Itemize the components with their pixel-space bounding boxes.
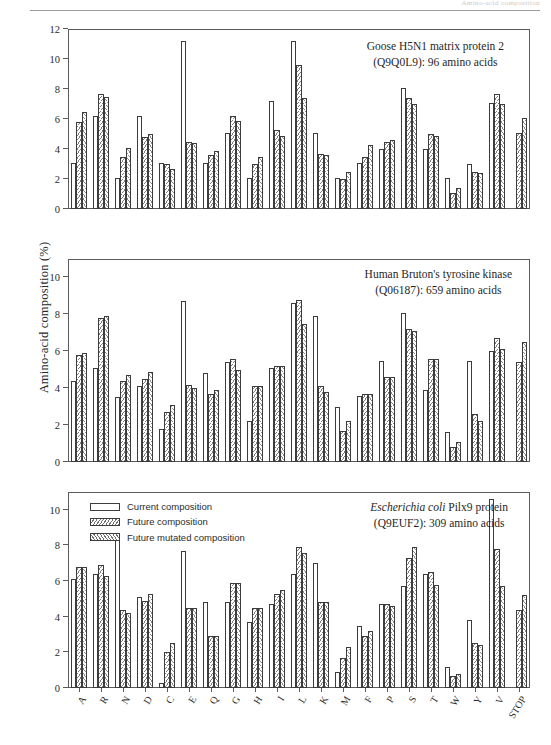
- panel-title: Goose H5N1 matrix protein 2(Q9Q0L9): 96 …: [367, 39, 504, 70]
- bar-H-s-mutated: [258, 157, 263, 210]
- y-axis-tick-label: 4: [55, 611, 60, 622]
- y-axis-tick: [63, 58, 68, 59]
- legend-item-s-current: Current composition: [90, 499, 245, 514]
- bar-W-s-mutated: [456, 674, 461, 688]
- figure-amino-acid-composition: Amino-acid composition Amino-acid compos…: [0, 0, 551, 745]
- bar-E-s-mutated: [192, 143, 197, 209]
- y-axis-tick-label: 12: [50, 24, 61, 35]
- bar-C-s-mutated: [170, 169, 175, 210]
- bar-L-s-mutated: [302, 324, 307, 462]
- y-axis-tick-label: 0: [55, 457, 60, 468]
- bar-M-s-mutated: [346, 647, 351, 688]
- legend-item-label: Current composition: [127, 499, 212, 514]
- bar-H-s-mutated: [258, 386, 263, 462]
- y-axis-tick: [63, 178, 68, 179]
- bar-G-s-mutated: [236, 121, 241, 210]
- x-axis-tick-label-R: R: [97, 694, 110, 705]
- y-axis-tick: [63, 148, 68, 149]
- bar-T-s-mutated: [434, 585, 439, 688]
- x-axis-tick-label-F: F: [362, 694, 374, 705]
- bar-STOP-s-mutated: [522, 342, 527, 462]
- x-axis-tick: [519, 688, 520, 692]
- y-axis-tick: [63, 580, 68, 581]
- bar-D-s-mutated: [148, 134, 153, 209]
- y-axis-tick: [63, 313, 68, 314]
- legend-item-label: Future mutated composition: [127, 530, 245, 545]
- y-axis-tick: [63, 276, 68, 277]
- bar-R-s-mutated: [104, 316, 109, 462]
- x-axis-tick: [123, 688, 124, 692]
- y-axis-tick: [63, 687, 68, 688]
- panel-title-line2: (Q9Q0L9): 96 amino acids: [367, 55, 504, 71]
- y-axis-tick: [63, 118, 68, 119]
- y-axis-tick: [63, 616, 68, 617]
- bar-K-s-mutated: [324, 392, 329, 462]
- bar-D-s-mutated: [148, 594, 153, 688]
- x-axis-tick: [145, 688, 146, 692]
- legend-swatch-icon: [90, 518, 120, 526]
- bar-C-s-mutated: [170, 405, 175, 462]
- y-axis-tick-label: 2: [55, 647, 60, 658]
- y-axis-tick-label: 8: [55, 309, 60, 320]
- x-axis-tick: [387, 688, 388, 692]
- bar-V-s-mutated: [500, 349, 505, 462]
- y-axis-tick-label: 2: [55, 174, 60, 185]
- x-axis-tick: [321, 688, 322, 692]
- bar-K-s-mutated: [324, 602, 329, 688]
- bar-R-s-mutated: [104, 97, 109, 210]
- x-axis-tick-label-S: S: [406, 694, 418, 705]
- panel-title-line2: (Q9EUF2): 309 amino acids: [370, 516, 508, 532]
- y-axis-tick-label: 2: [55, 420, 60, 431]
- chart-panel-human-btk: Human Bruton's tyrosine kinase(Q06187): …: [68, 259, 530, 462]
- legend-swatch-icon: [90, 533, 120, 541]
- x-axis-tick-label-D: D: [141, 694, 154, 706]
- y-axis-tick: [63, 350, 68, 351]
- y-axis-tick-label: 6: [55, 114, 60, 125]
- y-axis-tick-label: 0: [55, 683, 60, 694]
- y-axis-tick: [63, 651, 68, 652]
- bar-F-s-mutated: [368, 145, 373, 210]
- bar-H-s-mutated: [258, 608, 263, 688]
- x-axis-tick-label-Q: Q: [207, 694, 220, 706]
- y-axis-tick-label: 10: [50, 54, 61, 65]
- panel-title: Escherichia coli Pilx9 protein(Q9EUF2): …: [370, 500, 508, 531]
- y-axis-tick-label: 6: [55, 576, 60, 587]
- bar-A-s-mutated: [82, 567, 87, 688]
- bar-P-s-mutated: [390, 140, 395, 209]
- x-axis-tick: [299, 688, 300, 692]
- x-axis-tick-label-STOP: STOP: [506, 694, 528, 720]
- y-axis-tick-label: 6: [55, 346, 60, 357]
- x-axis-tick-label-N: N: [119, 694, 132, 706]
- panel-title-line1: Human Bruton's tyrosine kinase: [365, 267, 512, 283]
- panel-title: Human Bruton's tyrosine kinase(Q06187): …: [365, 267, 512, 298]
- x-axis-tick-label-C: C: [163, 694, 176, 705]
- panel-title-line2: (Q06187): 659 amino acids: [365, 283, 512, 299]
- legend-swatch-icon: [90, 503, 120, 511]
- y-axis-tick-label: 4: [55, 383, 60, 394]
- bar-C-s-mutated: [170, 643, 175, 688]
- x-axis-tick: [79, 688, 80, 692]
- y-axis-tick: [63, 28, 68, 29]
- y-axis-tick: [63, 544, 68, 545]
- bar-A-s-mutated: [82, 353, 87, 462]
- panel-title-line1: Escherichia coli Pilx9 protein: [370, 500, 508, 516]
- y-axis-tick-label: 4: [55, 144, 60, 155]
- bar-STOP-s-mutated: [522, 118, 527, 210]
- bar-Y-s-mutated: [478, 645, 483, 688]
- bar-W-s-mutated: [456, 442, 461, 462]
- x-axis-tick: [167, 688, 168, 692]
- bar-N-s-mutated: [126, 148, 131, 210]
- bar-R-s-mutated: [104, 576, 109, 688]
- y-axis-tick-label: 8: [55, 540, 60, 551]
- bar-I-s-mutated: [280, 366, 285, 462]
- chart-legend: Current compositionFuture compositionFut…: [90, 499, 245, 545]
- bar-V-s-mutated: [500, 104, 505, 209]
- bar-E-s-mutated: [192, 388, 197, 462]
- bar-Q-s-mutated: [214, 636, 219, 688]
- y-axis-tick: [63, 208, 68, 209]
- x-axis-tick-label-M: M: [338, 694, 352, 707]
- bar-N-s-mutated: [126, 375, 131, 462]
- bar-S-s-mutated: [412, 547, 417, 688]
- chart-panel-ecoli-pilx9: Escherichia coli Pilx9 protein(Q9EUF2): …: [68, 492, 530, 688]
- y-axis-tick: [63, 461, 68, 462]
